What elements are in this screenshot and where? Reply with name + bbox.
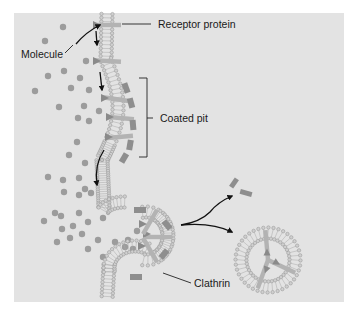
background-panel xyxy=(14,13,344,302)
vesicle-lipid-head xyxy=(271,290,274,293)
vesicle-lipid-head xyxy=(269,237,272,240)
membrane-lipid-head xyxy=(123,195,126,198)
vesicle-lipid-head xyxy=(267,226,270,229)
molecule-icon xyxy=(79,231,85,237)
vesicle-lipid-head xyxy=(287,251,290,254)
label-coated-pit: Coated pit xyxy=(160,112,208,124)
membrane-lipid-head xyxy=(103,258,106,261)
molecule-icon xyxy=(45,174,51,180)
molecule-icon xyxy=(59,226,65,232)
membrane-lipid-head xyxy=(144,216,147,219)
label-receptor-protein: Receptor protein xyxy=(158,18,236,30)
molecule-icon xyxy=(76,175,82,181)
membrane-lipid-head xyxy=(99,47,102,50)
molecule-icon xyxy=(32,88,38,94)
vesicle-lipid-head xyxy=(287,255,290,258)
vesicle-lipid-head xyxy=(293,240,296,243)
membrane-lipid-head xyxy=(111,295,114,298)
molecule-icon xyxy=(88,190,94,196)
vesicle-lipid-head xyxy=(266,291,269,294)
membrane-lipid-head xyxy=(108,123,111,126)
molecule-icon xyxy=(76,210,82,216)
molecule-icon xyxy=(74,139,80,145)
membrane-lipid-head xyxy=(111,288,114,291)
coated-vesicle xyxy=(234,226,302,294)
membrane-lipid-head xyxy=(113,65,116,68)
membrane-lipid-head xyxy=(119,206,122,209)
membrane-lipid-head xyxy=(112,285,115,288)
molecule-icon xyxy=(60,177,66,183)
vesicle-lipid-head xyxy=(240,277,243,280)
membrane-lipid-head xyxy=(107,197,110,200)
membrane-lipid-head xyxy=(122,109,125,112)
membrane-lipid-head xyxy=(105,77,108,80)
membrane-lipid-head xyxy=(111,112,114,115)
membrane-lipid-head xyxy=(100,287,103,290)
membrane-lipid-head xyxy=(146,205,149,208)
clathrin-icon xyxy=(134,207,146,213)
membrane-lipid-head xyxy=(123,206,126,209)
molecule-icon xyxy=(41,218,47,224)
molecule-icon xyxy=(61,189,67,195)
membrane-lipid-head xyxy=(99,54,102,57)
membrane-lipid-head xyxy=(171,239,174,242)
membrane-lipid-head xyxy=(101,273,104,276)
molecule-icon xyxy=(134,228,140,234)
membrane-lipid-head xyxy=(172,234,175,237)
membrane-lipid-head xyxy=(143,253,146,256)
membrane-lipid-head xyxy=(112,274,115,277)
membrane-lipid-head xyxy=(116,73,119,76)
membrane-lipid-head xyxy=(152,206,155,209)
molecule-icon xyxy=(60,24,66,30)
membrane-lipid-head xyxy=(121,91,124,94)
membrane-lipid-head xyxy=(100,294,103,297)
vesicle-lipid-head xyxy=(285,285,288,288)
vesicle-lipid-head xyxy=(272,226,275,229)
membrane-lipid-head xyxy=(111,16,114,19)
membrane-lipid-head xyxy=(141,216,144,219)
vesicle-lipid-head xyxy=(234,253,237,256)
membrane-lipid-head xyxy=(130,239,133,242)
membrane-lipid-head xyxy=(114,69,117,72)
membrane-lipid-head xyxy=(141,263,144,266)
membrane-lipid-head xyxy=(100,16,103,19)
membrane-lipid-head xyxy=(99,35,102,38)
molecule-icon xyxy=(85,219,91,225)
molecule-icon xyxy=(100,215,106,221)
label-molecule: Molecule xyxy=(21,48,63,60)
molecule-icon xyxy=(85,246,91,252)
molecule-icon xyxy=(95,237,101,243)
membrane-lipid-head xyxy=(104,199,107,202)
membrane-lipid-head xyxy=(99,28,102,31)
membrane-lipid-head xyxy=(117,78,120,81)
membrane-lipid-head xyxy=(101,64,104,67)
membrane-lipid-head xyxy=(126,240,129,243)
membrane-lipid-head xyxy=(119,195,122,198)
vesicle-lipid-head xyxy=(245,259,248,262)
membrane-lipid-head xyxy=(146,253,149,256)
membrane-lipid-head xyxy=(119,126,122,129)
molecule-icon xyxy=(67,235,73,241)
molecule-icon xyxy=(77,75,83,81)
vesicle-lipid-head xyxy=(248,232,251,235)
membrane-lipid-head xyxy=(146,264,149,267)
membrane-lipid-head xyxy=(118,243,121,246)
molecule-icon xyxy=(52,210,58,216)
molecule-icon xyxy=(68,85,74,91)
membrane-lipid-head xyxy=(111,196,114,199)
membrane-lipid-head xyxy=(99,43,102,46)
membrane-lipid-head xyxy=(109,120,112,123)
membrane-lipid-head xyxy=(111,108,114,111)
vesicle-lipid-head xyxy=(295,273,298,276)
membrane-lipid-head xyxy=(100,12,103,15)
vesicle-lipid-head xyxy=(251,287,254,290)
membrane-lipid-head xyxy=(100,20,103,23)
vesicle-lipid-head xyxy=(234,258,237,261)
membrane-lipid-head xyxy=(102,266,105,269)
membrane-lipid-head xyxy=(107,81,110,84)
vesicle-lipid-head xyxy=(259,238,262,241)
molecule-icon xyxy=(81,103,87,109)
membrane-lipid-head xyxy=(110,47,113,50)
membrane-lipid-head xyxy=(111,104,114,107)
membrane-lipid-head xyxy=(110,32,113,35)
